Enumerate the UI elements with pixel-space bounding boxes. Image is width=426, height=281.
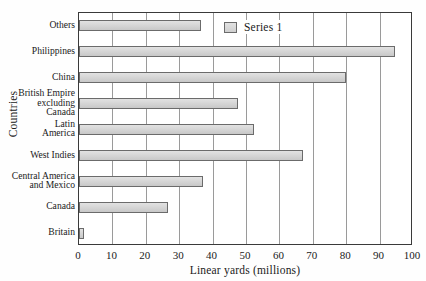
bar-row — [79, 91, 413, 117]
bar — [79, 202, 168, 213]
bar-row — [79, 39, 413, 65]
legend-swatch-series-1 — [224, 22, 237, 33]
bar — [79, 98, 238, 109]
x-axis-tick-label: 30 — [163, 249, 193, 261]
y-axis-tick-label: Philippines — [4, 46, 78, 56]
y-axis-tick-label: China — [4, 72, 78, 82]
bar — [79, 176, 203, 187]
x-axis-tick-label: 60 — [263, 249, 293, 261]
y-axis-tick-label: Latin America — [4, 119, 78, 138]
bar — [79, 228, 84, 239]
y-axis-tick-label: Britain — [4, 227, 78, 237]
bar-row — [79, 142, 413, 168]
bar-chart: Countries OthersPhilippinesChinaBritish … — [0, 0, 426, 281]
x-axis-tick-label: 0 — [63, 249, 93, 261]
y-axis-tick-label: British Empire excluding Canada — [4, 88, 78, 117]
bar-row — [79, 168, 413, 194]
x-axis-tick-label: 80 — [330, 249, 360, 261]
bar — [79, 124, 254, 135]
y-axis-tick-label: Others — [4, 20, 78, 30]
x-axis-tick-label: 40 — [197, 249, 227, 261]
bar — [79, 20, 201, 31]
bar-row — [79, 194, 413, 220]
x-axis-tick-label: 100 — [397, 249, 426, 261]
y-axis-tick-label: Central America and Mexico — [4, 171, 78, 190]
x-axis-tick-label: 90 — [364, 249, 394, 261]
y-axis-tick-labels: OthersPhilippinesChinaBritish Empire exc… — [0, 12, 78, 245]
bar — [79, 46, 395, 57]
plot-area — [78, 12, 412, 245]
bar — [79, 150, 303, 161]
y-axis-tick-label: West Indies — [4, 150, 78, 160]
bar-row — [79, 65, 413, 91]
bar — [79, 72, 346, 83]
x-axis-tick-label: 50 — [230, 249, 260, 261]
legend: Series 1 — [222, 20, 286, 34]
x-axis-tick-label: 10 — [96, 249, 126, 261]
bar-row — [79, 117, 413, 143]
legend-label-series-1: Series 1 — [244, 21, 282, 33]
bar-row — [79, 220, 413, 246]
x-axis-tick-label: 70 — [297, 249, 327, 261]
x-axis-title: Linear yards (millions) — [78, 264, 412, 276]
y-axis-tick-label: Canada — [4, 201, 78, 211]
x-axis-tick-label: 20 — [130, 249, 160, 261]
